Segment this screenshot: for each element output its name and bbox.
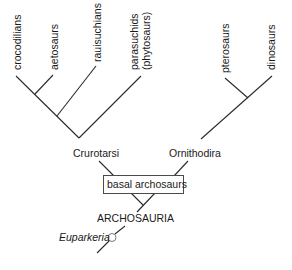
crurotarsi-branches: [16, 66, 141, 138]
ornithodira-branches: [201, 76, 272, 139]
taxon-labels: crocodilians aetosaurs rauisuchians para…: [11, 3, 277, 73]
clade-labels: Crurotarsi Ornithodira basal archosaurs …: [59, 147, 221, 243]
connector-ornithodira: [174, 161, 188, 176]
branch-dinosaurs: [201, 76, 272, 139]
label-aetosaurs: aetosaurs: [48, 24, 60, 70]
label-parasuchids: parasuchids: [128, 13, 140, 70]
label-phytosaurs: (phytosaurs): [140, 12, 152, 70]
stem-upper: [115, 226, 125, 234]
label-pterosaurs: pterosaurs: [219, 23, 231, 73]
connector-crurotarsi: [99, 161, 114, 176]
branch-pterosaurs: [225, 78, 248, 98]
label-dinosaurs: dinosaurs: [265, 24, 277, 70]
archosaur-cladogram: crocodilians aetosaurs rauisuchians para…: [0, 0, 292, 270]
label-crocodilians: crocodilians: [11, 15, 23, 70]
label-rauisuchians: rauisuchians: [91, 3, 103, 62]
connector-box-right: [137, 193, 155, 212]
label-euparkeria: Euparkeria: [59, 231, 110, 243]
branch-crocodilians: [16, 76, 79, 138]
label-basal-archosaurs: basal archosaurs: [107, 178, 187, 190]
label-archosauria: ARCHOSAURIA: [97, 212, 174, 224]
branch-parasuchids: [79, 76, 141, 138]
branch-rauisuchians: [57, 66, 96, 116]
branch-aetosaurs: [35, 75, 53, 94]
label-ornithodira: Ornithodira: [169, 147, 221, 159]
label-crurotarsi: Crurotarsi: [73, 147, 119, 159]
connector-box-left: [131, 193, 143, 205]
